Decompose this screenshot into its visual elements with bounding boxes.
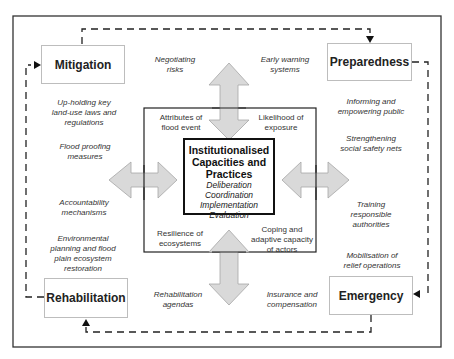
- phase-label: Mitigation: [55, 58, 112, 72]
- note-safety-nets: Strengthening social safety nets: [330, 134, 412, 154]
- double-arrow-top-icon: [209, 63, 249, 140]
- attribute-coping-capacity: Coping and adaptive capacity of actors: [246, 225, 318, 255]
- note-informing-public: Informing and empowering public: [330, 97, 412, 117]
- dashed-emergency-to-rehabilitation: [86, 315, 371, 332]
- note-accountability: Accountability mechanisms: [46, 198, 122, 218]
- central-capacities-box: Institutionalised Capacities and Practic…: [183, 138, 275, 215]
- attribute-flood-event: Attributes of flood event: [150, 113, 212, 133]
- note-early-warning: Early warning systems: [250, 55, 320, 75]
- note-environmental-planning: Environmental planning and flood plain e…: [42, 234, 124, 274]
- phase-label: Rehabilitation: [46, 291, 125, 305]
- attribute-ecosystem-resilience: Resilience of ecosystems: [148, 229, 212, 249]
- phase-emergency: Emergency: [329, 276, 413, 315]
- note-upholding-laws: Up-holding key land-use laws and regulat…: [45, 98, 123, 128]
- note-rehabilitation-agendas: Rehabilitation agendas: [143, 290, 213, 310]
- note-flood-proofing: Flood proofing measures: [50, 142, 120, 162]
- double-arrow-bottom-icon: [209, 230, 249, 305]
- phase-label: Preparedness: [330, 55, 409, 69]
- note-insurance: Insurance and compensation: [257, 290, 327, 310]
- note-training: Training responsible authorities: [336, 200, 406, 230]
- attribute-likelihood-exposure: Likelihood of exposure: [249, 113, 313, 133]
- arrowhead-up-icon: [82, 319, 90, 326]
- phase-mitigation: Mitigation: [41, 45, 125, 84]
- central-item-deliberation: Deliberation: [185, 180, 273, 190]
- phase-preparedness: Preparedness: [327, 43, 412, 81]
- central-item-coordination: Coordination: [185, 190, 273, 200]
- arrowhead-left-icon: [413, 290, 420, 298]
- central-item-evaluation: Evaluation: [185, 210, 273, 220]
- central-title: Institutionalised Capacities and Practic…: [185, 144, 273, 180]
- arrowhead-right-icon: [34, 61, 41, 69]
- double-arrow-left-icon: [109, 162, 177, 198]
- dashed-preparedness-to-emergency: [412, 62, 428, 294]
- phase-rehabilitation: Rehabilitation: [44, 278, 128, 318]
- note-mobilisation: Mobilisation of relief operations: [331, 251, 413, 271]
- phase-label: Emergency: [339, 289, 404, 303]
- central-item-implementation: Implementation: [185, 200, 273, 210]
- arrowhead-down-icon: [366, 36, 374, 43]
- dashed-mitigation-to-preparedness: [82, 29, 370, 44]
- note-negotiating-risks: Negotiating risks: [140, 55, 210, 75]
